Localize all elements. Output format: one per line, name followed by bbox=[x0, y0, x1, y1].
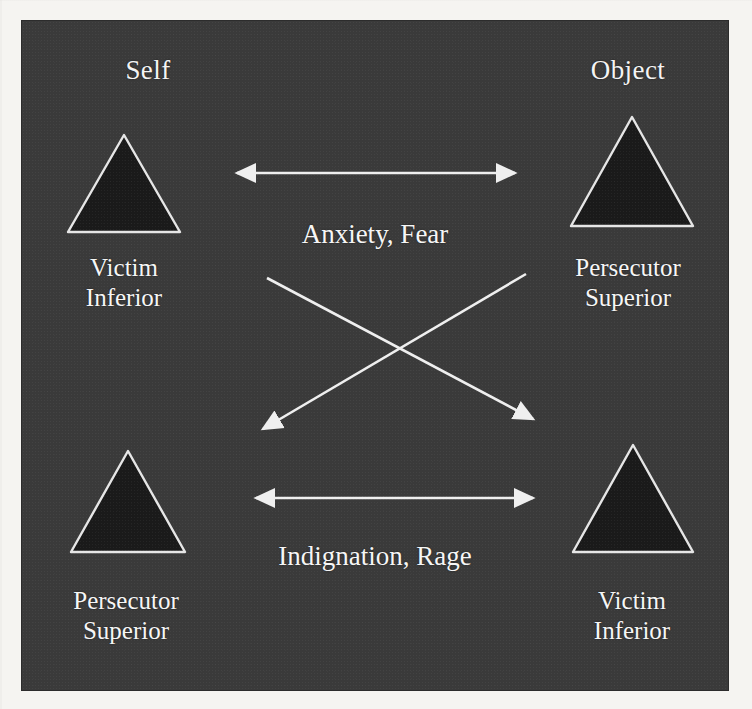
node-status-bottom-left: Superior bbox=[22, 616, 232, 646]
node-role-bottom-right: Victim bbox=[552, 586, 712, 616]
node-status-top-left: Inferior bbox=[44, 283, 204, 313]
node-label-top-left: Victim Inferior bbox=[44, 253, 204, 312]
column-heading-object: Object bbox=[548, 55, 708, 86]
node-label-bottom-left: Persecutor Superior bbox=[22, 586, 232, 645]
edge-label-anxiety-fear: Anxiety, Fear bbox=[195, 219, 555, 250]
edge-label-indignation-rage: Indignation, Rage bbox=[175, 541, 575, 572]
arrow-diagonal-down-left bbox=[263, 274, 526, 429]
arrow-diagonal-down-right bbox=[267, 278, 533, 419]
node-role-bottom-left: Persecutor bbox=[22, 586, 232, 616]
diagram-panel: Self Object bbox=[22, 21, 728, 690]
node-status-bottom-right: Inferior bbox=[552, 616, 712, 646]
node-status-top-right: Superior bbox=[522, 283, 728, 313]
node-label-bottom-right: Victim Inferior bbox=[552, 586, 712, 645]
column-heading-self: Self bbox=[68, 55, 228, 86]
node-role-top-left: Victim bbox=[44, 253, 204, 283]
node-role-top-right: Persecutor bbox=[522, 253, 728, 283]
figure-page: Self Object bbox=[0, 0, 752, 709]
node-label-top-right: Persecutor Superior bbox=[522, 253, 728, 312]
